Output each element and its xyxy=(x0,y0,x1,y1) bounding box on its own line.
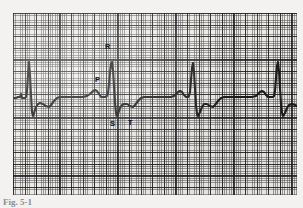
ecg-figure: R P S T Fig. 5-1 xyxy=(0,0,303,208)
r-wave-label: R xyxy=(105,43,110,51)
ecg-trace-svg xyxy=(13,13,297,195)
p-wave-label: P xyxy=(95,76,100,84)
ecg-waveform-path xyxy=(13,62,297,116)
figure-caption: Fig. 5-1 xyxy=(3,197,123,208)
s-wave-label: S xyxy=(110,120,115,128)
t-wave-label: T xyxy=(128,119,133,127)
ecg-graph-paper xyxy=(13,13,297,195)
